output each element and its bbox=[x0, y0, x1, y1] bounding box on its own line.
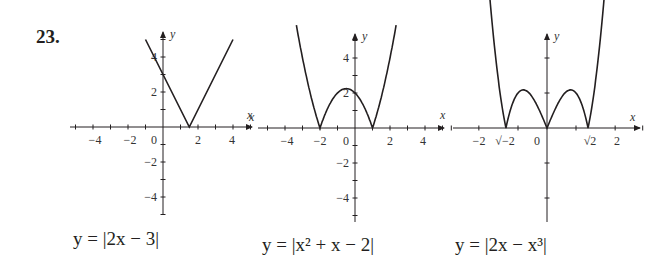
x-axis-label: x bbox=[248, 110, 255, 124]
x-tick-label: −2 bbox=[314, 134, 327, 148]
x-tick-label: √2 bbox=[584, 134, 597, 148]
y-tick-label: 2 bbox=[151, 85, 157, 99]
x-tick-label: 2 bbox=[195, 133, 201, 147]
x-tick-label: 4 bbox=[420, 134, 426, 148]
y-tick-label: 4 bbox=[343, 51, 349, 65]
x-tick-label: −2 bbox=[124, 133, 137, 147]
curve bbox=[296, 25, 396, 128]
y-axis-label: y bbox=[553, 29, 560, 43]
plot-abs-2x-minus-3: −4−202442−2−4yx bbox=[70, 27, 253, 215]
x-tick-label: −2 bbox=[473, 134, 486, 148]
caption-plot-2: y = |x² + x − 2| bbox=[262, 234, 374, 256]
x-tick-label: √−2 bbox=[495, 134, 514, 148]
x-tick-label: 2 bbox=[387, 134, 393, 148]
y-tick-label: −4 bbox=[144, 190, 157, 204]
plot-abs-x2-plus-x-minus-2: −4−202442−2−4yx bbox=[248, 25, 444, 222]
x-axis-label: x bbox=[629, 110, 636, 124]
x-tick-label: 4 bbox=[229, 133, 235, 147]
x-tick-label: −4 bbox=[281, 134, 294, 148]
x-tick-label: 0 bbox=[151, 133, 157, 147]
y-tick-label: −4 bbox=[336, 191, 349, 205]
curve bbox=[146, 40, 234, 128]
x-tick-label: −4 bbox=[89, 133, 102, 147]
y-axis-label: y bbox=[361, 29, 368, 43]
caption-plot-3: y = |2x − x³| bbox=[455, 234, 547, 256]
x-tick-label: 2 bbox=[614, 134, 620, 148]
x-tick-label: 0 bbox=[534, 134, 540, 148]
plot-abs-2x-minus-x3: −2√−20√22yxx bbox=[439, 0, 643, 222]
x-tick-label: 0 bbox=[343, 134, 349, 148]
y-axis-label: y bbox=[169, 27, 176, 41]
x-axis-label-plot3-left: x bbox=[439, 108, 446, 122]
caption-plot-1: y = |2x − 3| bbox=[73, 228, 159, 250]
y-tick-label: −2 bbox=[336, 156, 349, 170]
y-tick-label: −2 bbox=[144, 155, 157, 169]
